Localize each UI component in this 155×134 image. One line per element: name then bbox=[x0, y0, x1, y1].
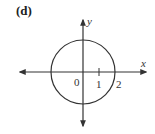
coordinate-plot: y x 0 1 2 bbox=[0, 0, 155, 134]
y-axis-label: y bbox=[86, 15, 92, 27]
x-axis-label: x bbox=[140, 57, 146, 69]
x-tick-label-1: 1 bbox=[96, 78, 102, 90]
x-tick-label-2: 2 bbox=[116, 78, 122, 90]
origin-label: 0 bbox=[74, 76, 80, 88]
